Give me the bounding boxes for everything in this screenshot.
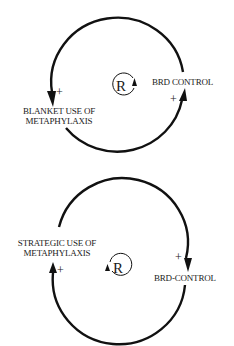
variable-label-line2: METAPHYLAXIS xyxy=(17,116,101,126)
reinforcing-loop-label-bottom: R xyxy=(113,260,123,276)
polarity-plus-right-top: + xyxy=(170,93,177,105)
variable-label-line1: BLANKET USE OF xyxy=(17,106,101,116)
diagram-canvas xyxy=(0,0,234,346)
variable-label-line1: STRATEGIC USE OF xyxy=(12,238,102,248)
polarity-plus-right-bottom: + xyxy=(175,251,182,263)
reinforcing-loop-label-top: R xyxy=(116,78,126,94)
variable-strategic-use-of-metaphylaxis: STRATEGIC USE OF METAPHYLAXIS xyxy=(12,238,102,258)
bottom-loop-left-arrowhead xyxy=(49,262,57,273)
polarity-plus-left-top: + xyxy=(56,86,63,98)
polarity-plus-left-bottom: + xyxy=(57,264,64,276)
variable-blanket-use-of-metaphylaxis: BLANKET USE OF METAPHYLAXIS xyxy=(17,106,101,126)
variable-brd-control-bottom: BRD-CONTROL xyxy=(154,273,216,283)
variable-label-line2: METAPHYLAXIS xyxy=(12,248,102,258)
bottom-loop-lower-arc xyxy=(53,273,185,344)
top-loop-left-arrowhead xyxy=(47,91,56,107)
bottom-loop-right-arrowhead xyxy=(184,258,192,272)
bottom-r-arrowhead xyxy=(105,264,110,271)
top-loop-right-arrowhead xyxy=(179,88,187,101)
top-r-arrowhead xyxy=(132,78,137,86)
variable-brd-control: BRD CONTROL xyxy=(152,77,213,87)
